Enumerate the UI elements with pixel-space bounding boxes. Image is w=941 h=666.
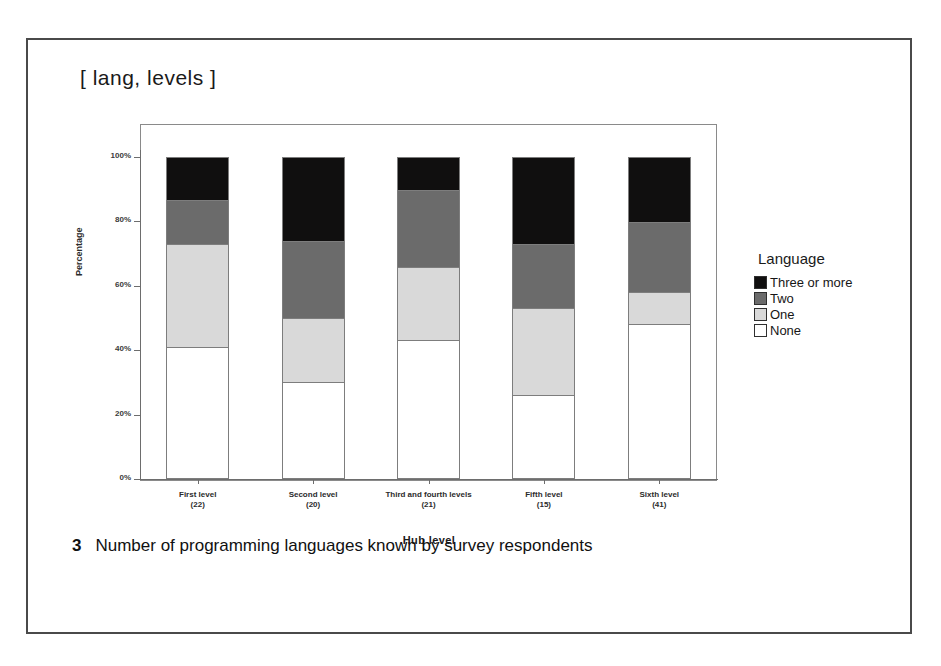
y-axis-tick-label: 80%	[115, 215, 131, 224]
legend-label: One	[770, 307, 795, 322]
x-axis-tick-mark	[659, 479, 660, 484]
bar-group	[397, 157, 460, 479]
legend-label: Three or more	[770, 275, 852, 290]
y-axis-tick-label: 40%	[115, 344, 131, 353]
stacked-bar[interactable]	[166, 157, 229, 479]
category-count: (21)	[385, 500, 471, 510]
legend-swatch	[754, 308, 767, 321]
y-axis-tick-mark	[134, 479, 140, 480]
plot-inner-region: 0%20%40%60%80%100%	[140, 157, 717, 479]
category-name: Fifth level	[525, 490, 562, 500]
bar-segment	[398, 190, 459, 267]
caption-number: 3	[72, 536, 81, 555]
bar-segment	[167, 158, 228, 200]
legend-item[interactable]: Three or more	[754, 275, 904, 290]
x-axis-category-label: Third and fourth levels(21)	[385, 490, 471, 510]
bar-segment	[167, 200, 228, 245]
bar-group	[512, 157, 575, 479]
x-axis-tick-mark	[313, 479, 314, 484]
stacked-bar[interactable]	[282, 157, 345, 479]
chart-area: Percentage 0%20%40%60%80%100% First leve…	[28, 40, 914, 510]
legend-item[interactable]: One	[754, 307, 904, 322]
x-axis-category-label: Sixth level(41)	[640, 490, 680, 510]
bar-segment	[513, 244, 574, 308]
y-axis-tick-label: 100%	[111, 151, 131, 160]
y-axis-tick-mark	[134, 286, 140, 287]
bar-segment	[398, 267, 459, 341]
legend-entries: Three or moreTwoOneNone	[754, 275, 904, 338]
category-count: (22)	[179, 500, 216, 510]
x-axis-tick-mark	[198, 479, 199, 484]
bar-segment	[513, 308, 574, 394]
category-name: First level	[179, 490, 216, 500]
bar-group	[628, 157, 691, 479]
category-name: Second level	[289, 490, 338, 500]
figure-outer-frame: [ lang, levels ] Percentage 0%20%40%60%8…	[26, 38, 912, 634]
bar-segment	[167, 347, 228, 478]
category-count: (15)	[525, 500, 562, 510]
bar-segment	[629, 292, 690, 324]
bar-segment	[283, 158, 344, 241]
category-name: Third and fourth levels	[385, 490, 471, 500]
legend-swatch	[754, 324, 767, 337]
y-axis-title: Percentage	[74, 227, 84, 276]
bar-segment	[167, 244, 228, 346]
y-axis-tick-mark	[134, 221, 140, 222]
bar-segment	[283, 382, 344, 478]
x-axis-tick-mark	[429, 479, 430, 484]
category-name: Sixth level	[640, 490, 680, 500]
y-axis-tick-label: 60%	[115, 280, 131, 289]
legend-title: Language	[758, 250, 904, 267]
y-axis-tick-label: 0%	[119, 473, 131, 482]
legend-label: None	[770, 323, 801, 338]
y-axis-tick-mark	[134, 415, 140, 416]
bar-segment	[283, 241, 344, 318]
legend-swatch	[754, 276, 767, 289]
bar-segment	[398, 158, 459, 190]
bar-group	[166, 157, 229, 479]
legend-label: Two	[770, 291, 794, 306]
legend-swatch	[754, 292, 767, 305]
category-count: (41)	[640, 500, 680, 510]
legend: Language Three or moreTwoOneNone	[754, 250, 904, 339]
bar-segment	[283, 318, 344, 382]
category-count: (20)	[289, 500, 338, 510]
x-axis-category-label: First level(22)	[179, 490, 216, 510]
y-axis-tick-mark	[134, 350, 140, 351]
stacked-bar[interactable]	[628, 157, 691, 479]
figure-caption: 3Number of programming languages known b…	[72, 533, 697, 558]
stacked-bar[interactable]	[512, 157, 575, 479]
bar-segment	[513, 395, 574, 478]
bar-segment	[629, 324, 690, 478]
x-axis-category-label: Fifth level(15)	[525, 490, 562, 510]
legend-item[interactable]: Two	[754, 291, 904, 306]
legend-item[interactable]: None	[754, 323, 904, 338]
x-axis-category-label: Second level(20)	[289, 490, 338, 510]
bar-segment	[629, 158, 690, 222]
bar-segment	[513, 158, 574, 244]
stacked-bar[interactable]	[397, 157, 460, 479]
caption-text: Number of programming languages known by…	[95, 536, 592, 555]
y-axis-tick-label: 20%	[115, 409, 131, 418]
bar-segment	[629, 222, 690, 292]
x-axis-tick-mark	[544, 479, 545, 484]
bar-segment	[398, 340, 459, 478]
bar-group	[282, 157, 345, 479]
y-axis-tick-mark	[134, 157, 140, 158]
